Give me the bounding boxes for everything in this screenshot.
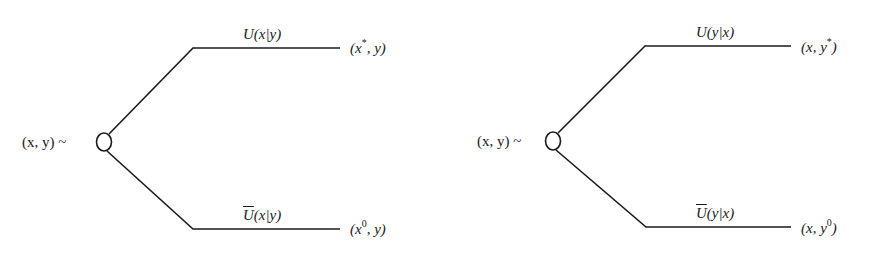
- right-lower-branch-label: U(y|x): [696, 206, 734, 221]
- outcome-superscript: *: [362, 37, 367, 48]
- outcome-superscript: 0: [362, 218, 367, 229]
- left-upper-branch-label: U(x|y): [243, 27, 281, 42]
- left-root-label: (x, y) ~: [22, 135, 66, 150]
- left-upper-outcome: (x*, y): [350, 41, 386, 56]
- root-label-text: (x, y) ~: [22, 134, 66, 150]
- right-tree-edges: [546, 46, 792, 227]
- tree-lines: [0, 0, 874, 254]
- utility-symbol: U: [696, 24, 707, 40]
- utility-argument: (y|x): [707, 24, 734, 40]
- utility-bar-symbol: U: [696, 205, 707, 221]
- right-lower-outcome: (x, y0): [801, 221, 837, 236]
- left-upper-edge: [109, 48, 340, 134]
- left-lower-branch-label: U(x|y): [243, 208, 281, 223]
- utility-bar-symbol: U: [243, 207, 254, 223]
- right-upper-edge: [558, 46, 791, 133]
- utility-symbol: U: [243, 26, 254, 42]
- right-lower-edge: [556, 150, 791, 227]
- left-lower-edge: [107, 151, 340, 229]
- outcome-open: (x: [350, 40, 362, 56]
- left-lower-outcome: (x0, y): [350, 222, 386, 237]
- outcome-close: ): [832, 220, 837, 236]
- right-upper-outcome: (x, y*): [801, 40, 837, 55]
- right-upper-branch-label: U(y|x): [696, 25, 734, 40]
- right-chance-node: [546, 132, 561, 150]
- left-chance-node: [97, 133, 112, 151]
- outcome-open: (x, y: [801, 39, 827, 55]
- outcome-close: , y): [367, 40, 386, 56]
- utility-argument: (x|y): [254, 207, 281, 223]
- root-label-text: (x, y) ~: [477, 133, 521, 149]
- outcome-close: , y): [367, 221, 386, 237]
- left-tree-edges: [97, 48, 341, 229]
- outcome-superscript: *: [827, 36, 832, 47]
- utility-argument: (x|y): [254, 26, 281, 42]
- right-root-label: (x, y) ~: [477, 134, 521, 149]
- outcome-open: (x, y: [801, 220, 827, 236]
- utility-argument: (y|x): [707, 205, 734, 221]
- outcome-open: (x: [350, 221, 362, 237]
- outcome-superscript: 0: [827, 217, 832, 228]
- outcome-close: ): [832, 39, 837, 55]
